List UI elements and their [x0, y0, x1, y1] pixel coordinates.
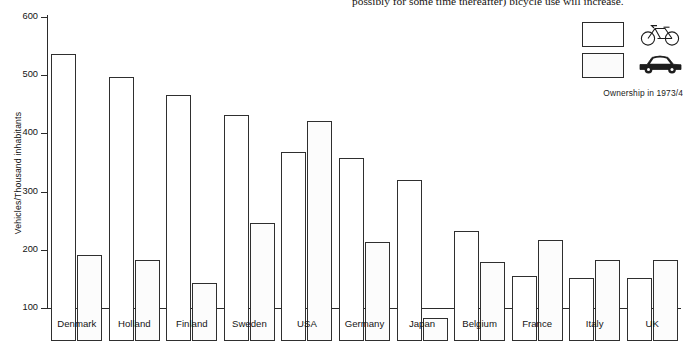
bar-bicycles-holland	[109, 77, 134, 341]
bar-bicycles-uk	[627, 278, 652, 341]
bar-bicycles-sweden	[224, 115, 249, 341]
y-axis-tick	[41, 250, 47, 251]
x-axis-label-italy: Italy	[566, 318, 624, 329]
bar-bicycles-usa	[281, 152, 306, 341]
y-axis-tick-label: 100	[0, 302, 38, 312]
x-axis-label-belgium: Belgium	[451, 318, 509, 329]
y-axis-tick-label: 500	[0, 69, 38, 79]
bar-chart: Vehicles/Thousand inhabitants 1002003004…	[0, 0, 683, 341]
bar-bicycles-italy	[569, 278, 594, 341]
x-axis-label-sweden: Sweden	[221, 318, 279, 329]
y-axis-tick-label: 600	[0, 11, 38, 21]
bar-group	[224, 41, 275, 341]
bar-cars-belgium	[480, 262, 505, 341]
x-axis-label-usa: USA	[278, 318, 336, 329]
bar-group	[569, 41, 620, 341]
x-axis-label-germany: Germany	[336, 318, 394, 329]
bar-bicycles-germany	[339, 158, 364, 341]
bar-group	[627, 41, 678, 341]
y-axis-tick	[41, 17, 47, 18]
bar-group	[454, 41, 505, 341]
bar-group	[51, 41, 102, 341]
bar-group	[339, 41, 390, 341]
bar-cars-finland	[192, 283, 217, 341]
y-axis-tick-label: 300	[0, 186, 38, 196]
y-axis-tick	[41, 133, 47, 134]
bar-group	[281, 41, 332, 341]
y-axis-tick	[41, 192, 47, 193]
y-axis-tick	[41, 75, 47, 76]
x-axis-label-france: France	[508, 318, 566, 329]
x-axis-label-japan: Japan	[393, 318, 451, 329]
x-axis-label-uk: UK	[623, 318, 681, 329]
bar-group	[512, 41, 563, 341]
bar-bicycles-finland	[166, 95, 191, 341]
bar-group	[109, 41, 160, 341]
x-axis-label-finland: Finland	[163, 318, 221, 329]
y-axis-tick	[41, 308, 47, 309]
bar-group	[166, 41, 217, 341]
bar-bicycles-france	[512, 276, 537, 341]
bar-cars-usa	[307, 121, 332, 341]
x-axis-label-holland: Holland	[106, 318, 164, 329]
bar-bicycles-denmark	[51, 54, 76, 341]
bar-bicycles-japan	[397, 180, 422, 341]
y-axis-title: Vehicles/Thousand inhabitants	[13, 93, 23, 253]
bar-group	[397, 41, 448, 341]
y-axis-tick-label: 400	[0, 127, 38, 137]
x-axis-label-denmark: Denmark	[48, 318, 106, 329]
y-axis-tick-label: 200	[0, 244, 38, 254]
